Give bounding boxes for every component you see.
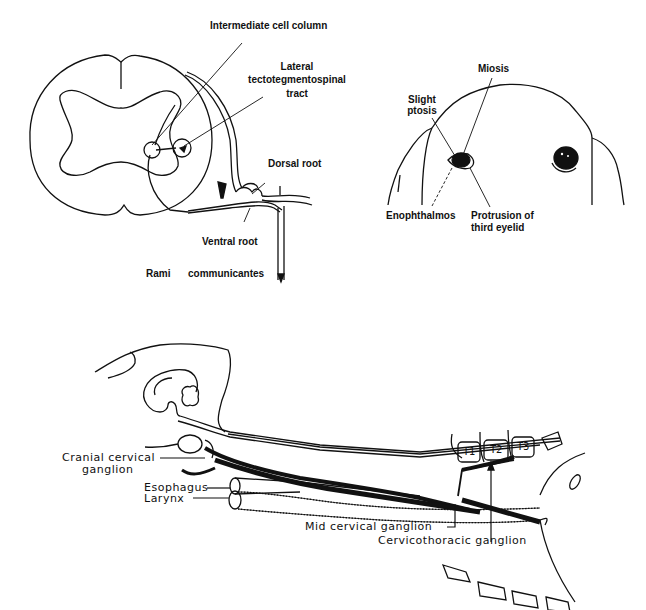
label-dorsal-root: Dorsal root	[268, 158, 321, 170]
label-lateral-line1: Lateral	[262, 61, 332, 73]
vertebra-t3: T3	[517, 441, 529, 452]
label-rami: Rami	[146, 268, 170, 280]
label-miosis: Miosis	[478, 63, 509, 75]
label-communicantes: communicantes	[188, 268, 264, 280]
label-cervicothoracic-ganglion: Cervicothoracic ganglion	[378, 534, 527, 547]
sympathetic-pathway-panel: Cranial cervical ganglion Esophagus Lary…	[0, 320, 646, 610]
label-mid-cervical-ganglion: Mid cervical ganglion	[305, 520, 432, 533]
label-enophthalmos: Enophthalmos	[386, 210, 455, 222]
label-slight-ptosis-line2: ptosis	[402, 105, 442, 117]
label-intermediate-cell-column: Intermediate cell column	[210, 20, 327, 32]
label-protrusion-line2: third eyelid	[471, 222, 524, 234]
face-panel: Miosis Slight ptosis Enophthalmos Protru…	[360, 60, 646, 260]
spinal-cord-drawing	[0, 0, 340, 290]
label-protrusion-line1: Protrusion of	[471, 210, 534, 222]
label-lateral-line3: tract	[262, 88, 332, 100]
label-larynx: Larynx	[144, 492, 184, 505]
label-lateral-line2: tectotegmentospinal	[232, 74, 362, 86]
label-ventral-root: Ventral root	[202, 236, 258, 248]
label-cranial-cervical-line2: ganglion	[82, 463, 134, 476]
vertebra-t2: T2	[490, 444, 502, 455]
spinal-cord-panel: Intermediate cell column Lateral tectote…	[0, 0, 340, 290]
vertebra-t1: T1	[463, 446, 475, 457]
